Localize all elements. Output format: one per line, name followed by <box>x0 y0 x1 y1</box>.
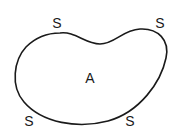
boundary-label-s-bottom-right: S <box>125 114 134 128</box>
region-label-a: A <box>85 71 94 85</box>
boundary-label-s-bottom-left: S <box>24 114 33 128</box>
boundary-label-s-top-right: S <box>155 16 164 30</box>
boundary-label-s-top-left: S <box>52 16 61 30</box>
